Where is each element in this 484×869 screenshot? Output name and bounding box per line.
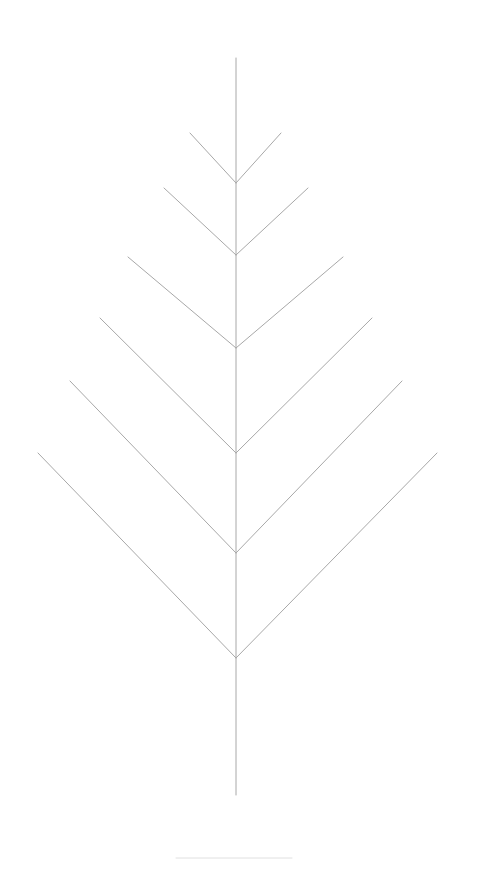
canvas-background [0,0,484,869]
leaf-venation-diagram [0,0,484,869]
